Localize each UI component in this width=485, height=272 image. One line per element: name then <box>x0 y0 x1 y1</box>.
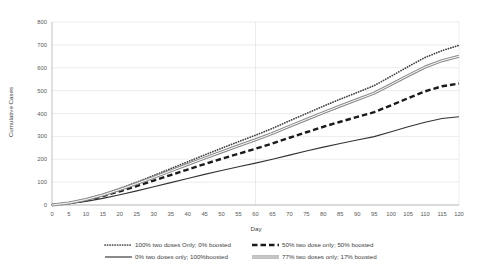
x-axis-title: Day <box>250 225 262 232</box>
x-tick-label: 0 <box>50 211 53 217</box>
legend-label: 100% two doses Only; 0% boosted <box>135 241 232 248</box>
x-tick-label: 55 <box>235 211 241 217</box>
x-tick-label: 80 <box>320 211 326 217</box>
x-tick-label: 85 <box>337 211 343 217</box>
x-tick-label: 100 <box>386 211 396 217</box>
x-tick-label: 35 <box>167 211 173 217</box>
legend-label: 50% two dose only; 50% boosted <box>282 241 374 248</box>
y-axis-tick-labels: 0100200300400500600700800 <box>37 19 47 208</box>
legend-item[interactable]: 0% two doses only; 100%boosted <box>105 253 228 260</box>
x-tick-label: 65 <box>269 211 275 217</box>
y-tick-label: 700 <box>37 42 47 48</box>
x-tick-label: 25 <box>134 211 140 217</box>
x-tick-label: 5 <box>67 211 70 217</box>
x-tick-label: 15 <box>100 211 106 217</box>
legend-item[interactable]: 50% two dose only; 50% boosted <box>252 241 374 248</box>
x-tick-label: 60 <box>252 211 258 217</box>
y-tick-label: 300 <box>37 133 47 139</box>
x-tick-label: 45 <box>201 211 207 217</box>
cumulative-cases-line-chart: 0100200300400500600700800 05101520253035… <box>0 0 485 272</box>
x-tick-label: 30 <box>151 211 157 217</box>
y-tick-label: 200 <box>37 156 47 162</box>
x-tick-label: 70 <box>286 211 292 217</box>
y-axis-title: Cumulative Cases <box>7 87 14 137</box>
y-tick-label: 400 <box>37 111 47 117</box>
x-tick-label: 10 <box>83 211 89 217</box>
grid-lines <box>52 22 459 205</box>
x-tick-label: 105 <box>403 211 413 217</box>
y-tick-label: 500 <box>37 88 47 94</box>
legend-item[interactable]: 77% two doses only; 17% boosted <box>252 253 377 260</box>
x-tick-label: 90 <box>354 211 360 217</box>
y-tick-label: 800 <box>37 19 47 25</box>
x-axis-tick-labels: 0510152025303540455055606570758085909510… <box>50 211 463 217</box>
chart-legend: 100% two doses Only; 0% boosted50% two d… <box>105 241 377 260</box>
x-tick-label: 20 <box>117 211 123 217</box>
legend-item[interactable]: 100% two doses Only; 0% boosted <box>105 241 232 248</box>
y-tick-label: 0 <box>44 202 47 208</box>
x-tick-label: 75 <box>303 211 309 217</box>
legend-label: 77% two doses only; 17% boosted <box>282 253 377 260</box>
y-tick-label: 100 <box>37 179 47 185</box>
chart-container: 0100200300400500600700800 05101520253035… <box>0 0 485 272</box>
x-tick-label: 110 <box>420 211 429 217</box>
legend-label: 0% two doses only; 100%boosted <box>135 253 228 260</box>
x-tick-label: 95 <box>371 211 377 217</box>
x-tick-label: 40 <box>184 211 190 217</box>
x-tick-label: 50 <box>218 211 224 217</box>
y-tick-label: 600 <box>37 65 47 71</box>
x-tick-label: 115 <box>437 211 446 217</box>
x-tick-label: 120 <box>454 211 464 217</box>
